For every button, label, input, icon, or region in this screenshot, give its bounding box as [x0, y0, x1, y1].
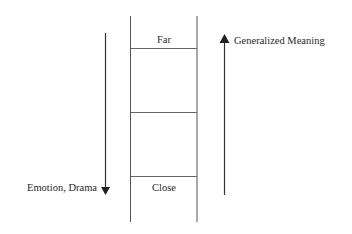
ladder-bottom-label: Close: [152, 182, 176, 193]
diagram-canvas: Far Close Emotion, Drama Generalized Mea…: [0, 0, 352, 234]
up-arrow-head-icon: [220, 34, 230, 43]
down-arrow-head-icon: [101, 187, 110, 195]
ladder-top-label: Far: [157, 34, 172, 45]
up-arrow-label: Generalized Meaning: [234, 35, 325, 46]
ladder-diagram: Far Close Emotion, Drama Generalized Mea…: [0, 0, 352, 234]
down-arrow-label: Emotion, Drama: [27, 182, 97, 193]
